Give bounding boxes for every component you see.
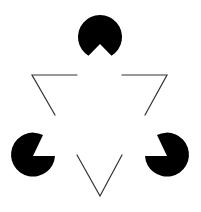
kanizsa-triangle-figure [0,0,201,212]
